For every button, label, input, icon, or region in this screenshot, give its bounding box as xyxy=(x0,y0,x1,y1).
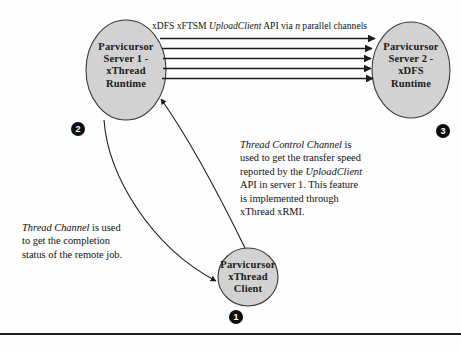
parallel-channels-label-part1: xDFS xFTSM xyxy=(152,20,209,31)
note-thread-control-line-3-part-1: reported by the xyxy=(240,166,306,177)
note-thread-channel-part-1: is used xyxy=(89,222,120,233)
note-thread-channel-line-2: to get the completion xyxy=(22,234,192,247)
note-thread-control-line-1: Thread Control Channel is xyxy=(240,138,415,151)
node-server2-shape[interactable] xyxy=(372,22,450,118)
note-thread-control-upload-client-term: UploadClient xyxy=(306,166,363,177)
note-thread-channel: Thread Channel is used to get the comple… xyxy=(22,221,192,261)
parallel-channels-label: xDFS xFTSM UploadClient API via n parall… xyxy=(152,20,367,31)
note-thread-control-channel-term: Thread Control Channel xyxy=(240,139,342,150)
badge-server2[interactable]: 3 xyxy=(436,124,450,138)
note-thread-control-channel: Thread Control Channel is used to get th… xyxy=(240,138,415,218)
diagram-canvas: Parvicursor Server 1 - xThread Runtime P… xyxy=(0,0,461,351)
note-thread-control-line-2: used to get the transfer speed xyxy=(240,151,415,164)
note-thread-channel-term: Thread Channel xyxy=(22,222,89,233)
note-thread-control-part-1: is xyxy=(342,139,352,150)
note-thread-channel-line-3: status of the remote job. xyxy=(22,248,192,261)
node-client-shape[interactable] xyxy=(218,248,278,306)
node-server1-shape[interactable] xyxy=(86,20,166,120)
parallel-channels-label-part3: parallel channels xyxy=(300,20,367,31)
parallel-channels-label-upload-client: UploadClient xyxy=(209,20,261,31)
parallel-channels-label-part2: API via xyxy=(261,20,295,31)
note-thread-control-line-4: API in server 1. This feature xyxy=(240,178,415,191)
note-thread-control-line-3: reported by the UploadClient xyxy=(240,165,415,178)
badge-client[interactable]: 1 xyxy=(229,310,243,324)
note-thread-control-line-6: xThread xRMI. xyxy=(240,205,415,218)
badge-server1[interactable]: 2 xyxy=(71,122,85,136)
bottom-divider xyxy=(0,333,461,335)
parallel-channel-lines xyxy=(160,39,375,79)
note-thread-channel-line-1: Thread Channel is used xyxy=(22,221,192,234)
note-thread-control-line-5: is implemented through xyxy=(240,192,415,205)
